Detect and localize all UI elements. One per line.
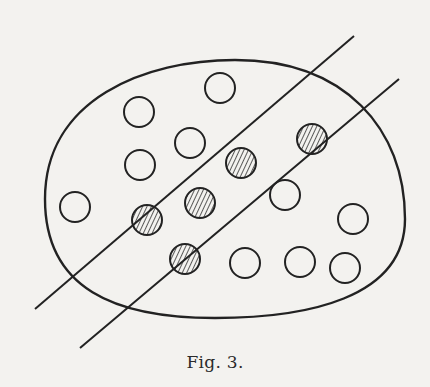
enclosing-boundary	[45, 60, 405, 318]
open-circle	[205, 73, 235, 103]
parallel-lines	[35, 36, 399, 348]
open-circle	[175, 128, 205, 158]
hatched-circle	[132, 205, 162, 235]
open-circle	[338, 204, 368, 234]
open-circle	[60, 192, 90, 222]
figure-diagram	[0, 0, 430, 387]
open-circle	[230, 248, 260, 278]
open-circle	[125, 150, 155, 180]
open-circle	[330, 253, 360, 283]
open-circle	[285, 247, 315, 277]
diagonal-line	[80, 79, 399, 348]
open-circle	[124, 97, 154, 127]
hatched-circle	[226, 148, 256, 178]
boundary-curve	[45, 60, 405, 318]
hatched-circle	[297, 124, 327, 154]
hatched-circle	[185, 188, 215, 218]
circle-group	[60, 73, 368, 283]
figure-caption: Fig. 3.	[0, 352, 430, 372]
